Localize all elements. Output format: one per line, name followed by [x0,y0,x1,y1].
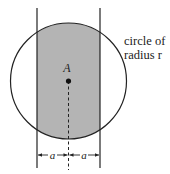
point-a-label: A [62,61,71,75]
annotation-line-1: circle of [124,34,165,48]
point-a-dot [66,78,71,83]
dim-label-right: a [81,149,87,161]
dim-label-left: a [50,149,56,161]
annotation-line-2: radius r [124,48,165,62]
strip-circle-diagram: a a A [0,0,170,174]
arrowhead-icon [64,153,68,156]
arrowhead-icon [70,153,74,156]
arrowhead-icon [38,153,42,156]
arrowhead-icon [95,153,99,156]
circle-annotation: circle of radius r [124,34,165,62]
